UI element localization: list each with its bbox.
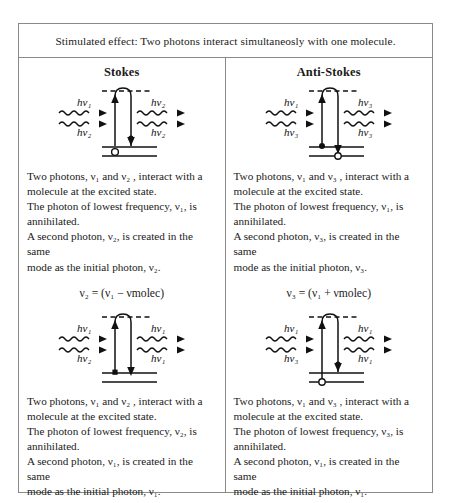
outgoing-arrow-2 [177,120,185,127]
text-line: annihilated. [27,439,218,454]
text-line: annihilated. [234,214,426,229]
energy-level-diagram-svg: hν₁ hν₂ hν₂ hν₂ [47,84,197,162]
outgoing-arrow-1 [384,335,392,342]
text-line: mode as the initial photon, ν₃. [234,260,426,275]
label-left-top: hν₁ [77,96,91,108]
text-line: molecule at the excited state. [27,409,218,424]
text-line: The photon of lowest frequency, ν₂, is [27,424,218,439]
antistokes-lower-diagram: hν₁ hν₃ hν₁ hν₁ [226,310,433,388]
stokes-equation: ν₂ = (ν₁ − νmolec) [19,287,225,300]
table-caption: Stimulated effect: Two photons interact … [55,35,395,47]
text-line: Two photons, ν₁ and ν₂ , interact with a [27,169,218,184]
text-line: molecule at the excited state. [234,409,426,424]
down-dot [335,361,340,366]
label-left-top: hν₁ [284,322,298,334]
text-line: molecule at the excited state. [27,184,218,199]
label-left-top: hν₁ [77,322,91,334]
label-right-top: hν₁ [358,322,372,334]
stokes-lower-diagram: hν₁ hν₂ hν₁ hν₁ [19,310,225,388]
incoming-arrow-2 [99,120,107,127]
label-left-bottom: hν₂ [77,352,91,364]
incoming-wave-1 [59,337,89,341]
text-line: A second photon, ν₃, is created in the s… [234,229,426,259]
outgoing-wave-1 [344,111,374,115]
text-line: Two photons, ν₁ and ν₃ , interact with a [234,394,426,409]
incoming-arrow-2 [99,346,107,353]
start-state-marker [319,143,325,149]
antistokes-upper-diagram: hν₁ hν₃ hν₃ hν₃ [226,84,433,162]
energy-level-diagram-svg: hν₁ hν₃ hν₃ hν₃ [254,84,404,162]
stimulated-effect-table: Stimulated effect: Two photons interact … [18,23,433,493]
outgoing-arrow-1 [384,109,392,116]
incoming-wave-1 [59,111,89,115]
label-right-bottom: hν₁ [358,352,372,364]
text-line: The photon of lowest frequency, ν₁, is [27,199,218,214]
incoming-arrow-2 [306,346,314,353]
energy-level-diagram-svg: hν₁ hν₃ hν₁ hν₁ [254,310,404,388]
up-arrow-head [111,94,119,103]
table-caption-row: Stimulated effect: Two photons interact … [19,24,432,58]
outgoing-arrow-2 [384,120,392,127]
incoming-wave-1 [266,337,296,341]
down-arrow-head [127,367,135,376]
label-right-bottom: hν₂ [151,126,165,138]
outgoing-arrow-2 [177,346,185,353]
outgoing-wave-1 [137,111,167,115]
text-line: annihilated. [27,214,218,229]
column-header-anti-stokes: Anti-Stokes [226,58,433,82]
incoming-arrow-1 [306,109,314,116]
text-line: mode as the initial photon, ν₂. [27,260,218,275]
incoming-wave-1 [266,111,296,115]
label-right-bottom: hν₃ [358,126,372,138]
antistokes-upper-text: Two photons, ν₁ and ν₃ , interact with a… [226,169,433,275]
stokes-upper-diagram: hν₁ hν₂ hν₂ hν₂ [19,84,225,162]
label-left-bottom: hν₃ [284,352,298,364]
text-line: A second photon, ν₂, is created in the s… [27,229,218,259]
label-right-top: hν₂ [151,96,165,108]
transition-arc [322,88,338,146]
energy-level-diagram-svg: hν₁ hν₂ hν₁ hν₁ [47,310,197,388]
label-right-bottom: hν₁ [151,352,165,364]
stokes-lower-text: Two photons, ν₁ and ν₂ , interact with a… [19,394,225,500]
molecule-population-marker [111,149,118,156]
outgoing-wave-1 [137,337,167,341]
text-line: molecule at the excited state. [234,184,426,199]
text-line: A second photon, ν₁, is created in the s… [234,454,426,484]
columns-container: Stokes [19,58,432,493]
outgoing-wave-1 [344,337,374,341]
label-left-bottom: hν₃ [284,126,298,138]
incoming-arrow-1 [306,335,314,342]
text-line: mode as the initial photon, ν₁. [234,484,426,499]
outgoing-arrow-1 [177,335,185,342]
up-arrow-head [111,320,119,329]
label-right-top: hν₁ [151,322,165,334]
text-line: annihilated. [234,439,426,454]
outgoing-arrow-2 [384,346,392,353]
column-header-stokes: Stokes [19,58,225,82]
up-arrow-head [318,320,326,329]
up-arrow-head [318,94,326,103]
text-line: The photon of lowest frequency, ν₁, is [234,199,426,214]
text-line: mode as the initial photon, ν₁. [27,484,218,499]
text-line: The photon of lowest frequency, ν₃, is [234,424,426,439]
figure-page: Stimulated effect: Two photons interact … [0,0,451,503]
text-line: Two photons, ν₁ and ν₃ , interact with a [234,169,426,184]
label-right-top: hν₃ [358,96,372,108]
label-left-bottom: hν₂ [77,126,91,138]
transition-arc [115,314,131,372]
down-dot [128,135,133,140]
outgoing-arrow-1 [177,109,185,116]
text-line: Two photons, ν₁ and ν₂ , interact with a [27,394,218,409]
incoming-arrow-1 [99,109,107,116]
text-line: A second photon, ν₁, is created in the s… [27,454,218,484]
antistokes-equation: ν₃ = (ν₁ + νmolec) [226,287,433,300]
incoming-arrow-2 [306,120,314,127]
column-stokes: Stokes [19,58,226,493]
molecule-population-marker [319,378,325,384]
molecule-population-marker [335,153,341,159]
stokes-upper-text: Two photons, ν₁ and ν₂ , interact with a… [19,169,225,275]
incoming-arrow-1 [99,335,107,342]
label-left-top: hν₁ [284,96,298,108]
column-anti-stokes: Anti-Stokes [226,58,433,493]
antistokes-lower-text: Two photons, ν₁ and ν₃ , interact with a… [226,394,433,500]
